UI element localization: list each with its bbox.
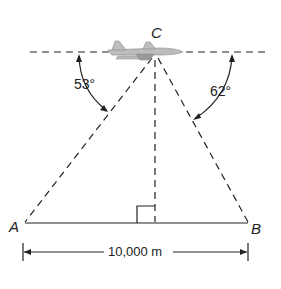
right-angle-marker bbox=[137, 206, 155, 223]
point-label-a: A bbox=[9, 219, 19, 234]
angle-label-62: 62° bbox=[210, 84, 231, 98]
arrowhead-62-top bbox=[229, 54, 235, 62]
arrowhead-53-top bbox=[76, 54, 82, 62]
line-c-to-b bbox=[158, 58, 248, 222]
dimension-arrow-left bbox=[24, 249, 31, 255]
point-label-b: B bbox=[251, 221, 261, 236]
distance-label: 10,000 m bbox=[107, 245, 163, 258]
angle-label-53: 53° bbox=[74, 77, 95, 91]
arrowhead-62-bottom bbox=[193, 113, 201, 120]
airplane-icon bbox=[108, 41, 183, 60]
point-label-c: C bbox=[151, 25, 162, 40]
dimension-arrow-right bbox=[240, 249, 247, 255]
